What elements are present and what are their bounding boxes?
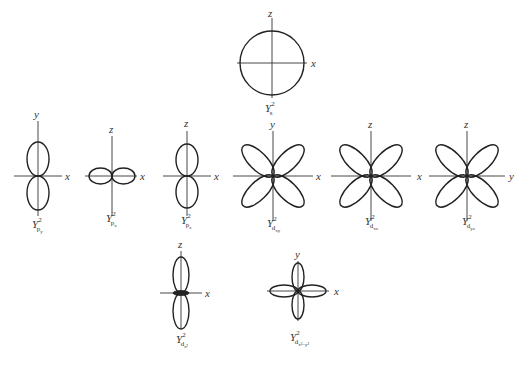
- label-dxy: Y2dxy: [267, 216, 285, 233]
- svg-text:x: x: [204, 287, 210, 299]
- orbital-s: z x: [237, 7, 316, 98]
- orbital-py: y x: [14, 108, 70, 216]
- orbital-dz2: z x: [160, 238, 210, 329]
- orbital-px: z x: [85, 123, 145, 216]
- orbital-diagram: z x y x z x z x y x: [0, 0, 527, 365]
- label-dxz: Y2dxz: [365, 214, 383, 231]
- svg-text:x: x: [333, 285, 339, 297]
- svg-text:x: x: [416, 170, 422, 182]
- svg-text:z: z: [463, 118, 469, 130]
- orbital-dx2y2: y x: [267, 248, 339, 321]
- label-s: Y2s: [265, 101, 277, 117]
- label-dz2: Y2dz²: [176, 332, 193, 349]
- orbital-pz: z x: [163, 117, 219, 216]
- svg-text:z: z: [183, 117, 189, 129]
- svg-text:z: z: [108, 123, 114, 135]
- svg-text:x: x: [213, 170, 219, 182]
- label-pz: Y2pz: [181, 213, 196, 230]
- svg-text:y: y: [33, 108, 39, 120]
- svg-text:x: x: [139, 170, 145, 182]
- svg-text:x: x: [310, 57, 316, 69]
- svg-text:z: z: [177, 238, 183, 250]
- label-dyz: Y2dyz: [462, 214, 480, 231]
- label-py: Y2py: [32, 217, 48, 234]
- svg-text:x: x: [315, 170, 321, 182]
- orbital-dxy: y x: [233, 118, 321, 221]
- svg-text:y: y: [269, 118, 275, 130]
- svg-text:z: z: [267, 7, 273, 19]
- label-dx2y2: Y2dx²−y²: [290, 330, 314, 347]
- orbital-dyz: z y: [429, 118, 514, 221]
- svg-text:y: y: [508, 170, 514, 182]
- label-px: Y2px: [106, 211, 122, 228]
- orbital-dxz: z x: [331, 118, 422, 221]
- svg-text:x: x: [64, 170, 70, 182]
- svg-text:z: z: [367, 118, 373, 130]
- svg-text:y: y: [294, 248, 300, 260]
